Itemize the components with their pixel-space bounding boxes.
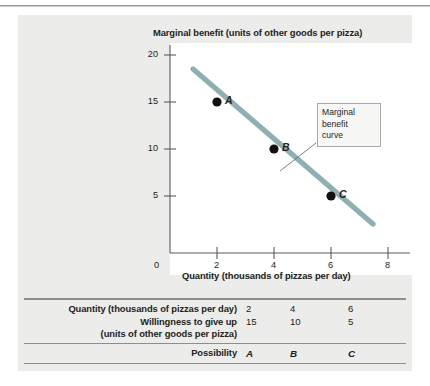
- table-row-label-willingness-line1: Willingness to give up: [24, 316, 246, 329]
- callout-line-2: benefit: [322, 119, 376, 131]
- marginal-benefit-curve-callout: Marginal benefit curve: [317, 103, 381, 147]
- table-row-continuation: (units of other goods per pizza): [24, 328, 406, 341]
- table-cell-possibility-c: C: [348, 347, 406, 360]
- table-cell-quantity-a: 2: [246, 303, 290, 316]
- data-point-label-a: A: [225, 94, 233, 106]
- data-table-grid: Quantity (thousands of pizzas per day) 2…: [24, 300, 406, 341]
- table-cell-willingness-c: 5: [348, 316, 406, 329]
- table-cell-possibility-a: A: [246, 347, 290, 360]
- table-cell-empty-a: [246, 328, 290, 341]
- table-bottom-rule: [24, 363, 406, 364]
- x-tick-label-4: 4: [271, 260, 276, 270]
- table-cell-quantity-b: 4: [290, 303, 348, 316]
- table-row: Willingness to give up 15 10 5: [24, 316, 406, 329]
- table-cell-empty-b: [290, 328, 348, 341]
- table-row: Quantity (thousands of pizzas per day) 2…: [24, 303, 406, 316]
- table-cell-quantity-c: 6: [348, 303, 406, 316]
- x-tick-label-8: 8: [385, 260, 390, 270]
- x-tick-label-6: 6: [328, 260, 333, 270]
- data-table-possibility: Possibility A B C: [24, 344, 406, 360]
- plot-svg: [18, 15, 412, 285]
- data-point-b: [269, 144, 278, 153]
- data-point-c: [326, 191, 335, 200]
- data-table: Quantity (thousands of pizzas per day) 2…: [24, 298, 406, 364]
- callout-line-1: Marginal: [322, 107, 376, 119]
- callout-line-3: curve: [322, 130, 376, 142]
- table-row-label-possibility: Possibility: [24, 347, 246, 360]
- chart: Marginal benefit (units of other goods p…: [18, 15, 412, 285]
- table-cell-willingness-a: 15: [246, 316, 290, 329]
- table-row: Possibility A B C: [24, 347, 406, 360]
- page-top-rule-shadow: [0, 6, 430, 7]
- x-tick-label-2: 2: [214, 260, 219, 270]
- table-cell-willingness-b: 10: [290, 316, 348, 329]
- y-tick-label-20: 20: [136, 49, 158, 59]
- origin-label: 0: [154, 260, 159, 270]
- figure-root: Marginal benefit (units of other goods p…: [0, 0, 430, 386]
- data-point-label-c: C: [339, 188, 347, 200]
- data-point-label-b: B: [282, 141, 290, 153]
- table-cell-possibility-b: B: [290, 347, 348, 360]
- y-tick-label-15: 15: [136, 96, 158, 106]
- x-axis-title: Quantity (thousands of pizzas per day): [182, 270, 351, 281]
- table-row-label-quantity: Quantity (thousands of pizzas per day): [24, 303, 246, 316]
- y-tick-label-5: 5: [136, 190, 158, 200]
- table-cell-empty-c: [348, 328, 406, 341]
- data-point-a: [212, 97, 221, 106]
- table-row-label-willingness-line2: (units of other goods per pizza): [24, 328, 246, 341]
- y-tick-label-10: 10: [136, 143, 158, 153]
